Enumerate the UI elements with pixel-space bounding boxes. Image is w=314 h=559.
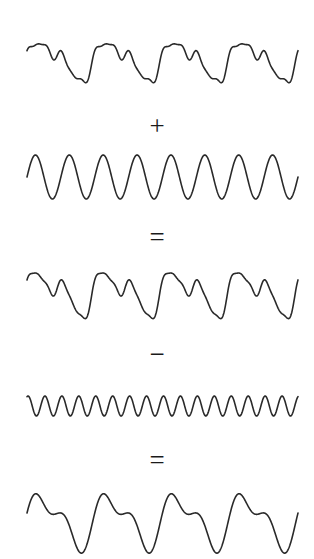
operator-equals-first: = [0, 224, 314, 251]
operator-equals-second: = [0, 447, 314, 474]
wave-sum-result [27, 273, 298, 319]
wave-subtracted-high-frequency [27, 396, 298, 416]
operator-plus: + [0, 113, 314, 140]
wave-final-smoothed [27, 494, 298, 553]
wave-added-sine [27, 155, 298, 199]
wave-complex-input [27, 44, 298, 83]
operator-minus: − [0, 341, 314, 368]
wave-diagram [0, 0, 314, 559]
